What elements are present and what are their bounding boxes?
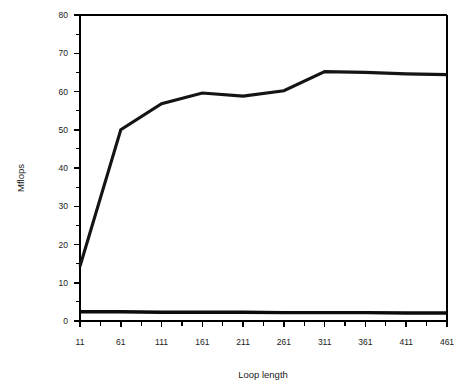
- y-tick-label: 60: [59, 87, 69, 97]
- y-axis-tick-labels: 01020304050607080: [59, 10, 69, 326]
- y-axis-ticks: [74, 15, 80, 321]
- mflops-loop-length-line-chart: 01020304050607080 1161111161211261311361…: [0, 0, 462, 387]
- data-series-group: [80, 72, 447, 313]
- chart-container: 01020304050607080 1161111161211261311361…: [0, 0, 462, 387]
- x-tick-label: 461: [440, 337, 454, 347]
- y-tick-label: 80: [59, 10, 69, 20]
- x-axis-ticks: [80, 321, 447, 327]
- series-lower-flat: [80, 312, 447, 313]
- plot-frame: [80, 15, 447, 321]
- x-tick-label: 411: [399, 337, 413, 347]
- x-tick-label: 311: [318, 337, 332, 347]
- x-tick-label: 211: [236, 337, 250, 347]
- y-tick-label: 10: [59, 278, 69, 288]
- x-tick-label: 11: [76, 337, 85, 347]
- y-tick-label: 70: [59, 48, 69, 58]
- series-upper-curve: [80, 72, 447, 267]
- x-axis-tick-labels: 1161111161211261311361411461: [76, 337, 455, 347]
- y-tick-label: 30: [59, 201, 69, 211]
- y-tick-label: 20: [59, 240, 69, 250]
- x-tick-label: 61: [116, 337, 126, 347]
- x-tick-label: 361: [358, 337, 372, 347]
- y-tick-label: 0: [63, 316, 68, 326]
- x-tick-label: 111: [155, 337, 168, 347]
- x-tick-label: 161: [195, 337, 209, 347]
- x-tick-label: 261: [277, 337, 291, 347]
- y-tick-label: 40: [59, 163, 69, 173]
- x-axis-title: Loop length: [238, 369, 288, 380]
- y-axis-title: Mflops: [15, 164, 26, 192]
- y-tick-label: 50: [59, 125, 69, 135]
